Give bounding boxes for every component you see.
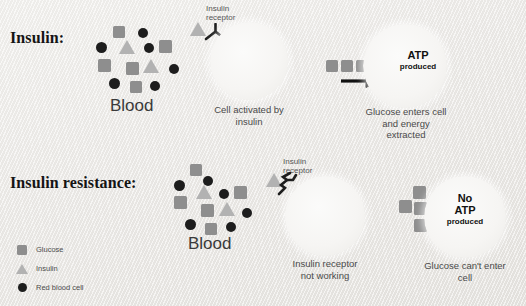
blood-cluster-resistant xyxy=(172,164,262,234)
glucose-molecule xyxy=(399,200,412,213)
red-blood-cell xyxy=(174,180,185,191)
red-blood-cell xyxy=(138,28,148,38)
red-blood-cell xyxy=(219,189,229,199)
blood-label-normal: Blood xyxy=(110,96,153,116)
legend-item-glucose: Glucose xyxy=(14,242,84,257)
red-blood-cell xyxy=(144,43,154,53)
legend-label: Insulin xyxy=(36,264,58,273)
legend-item-insulin: Insulin xyxy=(14,261,84,276)
red-blood-cell xyxy=(226,222,236,232)
insulin-molecule xyxy=(196,185,212,199)
atp-label: ATP xyxy=(390,49,446,61)
glucose-molecule xyxy=(201,204,214,217)
cell-activated xyxy=(210,22,288,100)
legend-label: Red blood cell xyxy=(36,283,84,292)
legend: Glucose Insulin Red blood cell xyxy=(14,242,84,299)
red-blood-cell xyxy=(150,81,160,91)
glucose-molecule xyxy=(159,40,172,53)
blood-cluster-normal xyxy=(95,26,185,94)
insulin-molecule xyxy=(143,59,159,73)
caption-cell-activated: Cell activated by insulin xyxy=(199,104,299,127)
blood-label-resistant: Blood xyxy=(188,234,231,254)
legend-label: Glucose xyxy=(36,245,64,254)
red-blood-cell xyxy=(242,208,252,218)
red-blood-cell xyxy=(96,42,107,53)
diagram-canvas: Insulin: Blood Insulin receptor Cell act… xyxy=(0,0,526,306)
glucose-molecule xyxy=(174,196,187,209)
caption-glucose-cant-enter: Glucose can't enter cell xyxy=(410,260,520,283)
atp-produced-label: produced xyxy=(390,62,446,71)
caption-glucose-enters: Glucose enters cell and energy extracted xyxy=(351,106,461,141)
glucose-molecule xyxy=(190,164,202,176)
caption-receptor-not-working: Insulin receptor not working xyxy=(275,258,375,281)
row-heading-insulin: Insulin: xyxy=(10,29,64,47)
red-blood-cell xyxy=(169,64,179,74)
glucose-molecule xyxy=(341,60,353,72)
glucose-molecule xyxy=(113,26,125,38)
insulin-molecule xyxy=(219,202,235,216)
insulin-triangle-icon xyxy=(14,264,30,274)
glucose-molecule xyxy=(234,186,247,199)
legend-item-red-blood-cell: Red blood cell xyxy=(14,280,84,295)
insulin-molecule xyxy=(119,40,135,54)
glucose-molecule xyxy=(98,59,111,72)
row-heading-insulin-resistance: Insulin resistance: xyxy=(10,174,137,192)
red-blood-cell xyxy=(109,78,120,89)
glucose-molecule xyxy=(126,62,139,75)
red-blood-cell xyxy=(185,219,196,230)
no-atp-label: No ATP xyxy=(436,192,494,216)
insulin-receptor-label-normal: Insulin receptor xyxy=(206,4,235,22)
glucose-molecule xyxy=(130,81,142,93)
red-blood-cell-circle-icon xyxy=(14,283,30,292)
cell-receptor-not-working xyxy=(285,176,365,256)
no-atp-produced-label: produced xyxy=(436,217,494,226)
glucose-square-icon xyxy=(14,245,30,255)
glucose-molecule xyxy=(413,186,426,199)
glucose-molecule xyxy=(326,60,338,72)
